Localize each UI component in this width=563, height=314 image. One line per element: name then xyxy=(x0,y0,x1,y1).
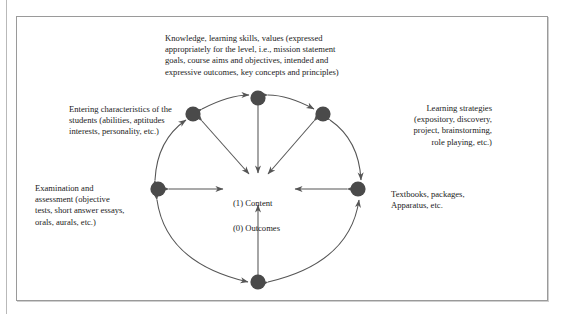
arrow-top-to-upperright xyxy=(268,95,314,109)
node-textbooks-packages xyxy=(350,181,365,196)
node-learning-strategies xyxy=(315,106,330,121)
label-examination-assessment: Examination and assessment (objective te… xyxy=(35,183,173,228)
arrow-upperleft-to-center xyxy=(202,121,249,174)
label-center: (1) Content (0) Outcomes xyxy=(233,184,319,247)
label-textbooks-packages: Textbooks, packages, Apparatus, etc. xyxy=(391,189,541,211)
label-knowledge: Knowledge, learning skills, values (expr… xyxy=(165,33,471,78)
label-learning-strategies: Learning strategies (expository, discove… xyxy=(350,103,492,148)
node-bottom-unlabeled xyxy=(250,274,265,289)
center-line-content: (1) Content xyxy=(233,197,319,210)
arrow-upperleft-to-top xyxy=(202,95,249,109)
center-line-outcomes: (0) Outcomes xyxy=(233,222,319,235)
node-knowledge xyxy=(250,90,265,105)
page-margin-rule xyxy=(6,0,7,314)
label-entering-characteristics: Entering characteristics of the students… xyxy=(69,104,209,138)
figure-page: Knowledge, learning skills, values (expr… xyxy=(0,0,563,314)
arrow-upperright-to-center xyxy=(268,121,314,174)
figure-frame: Knowledge, learning skills, values (expr… xyxy=(16,16,548,301)
